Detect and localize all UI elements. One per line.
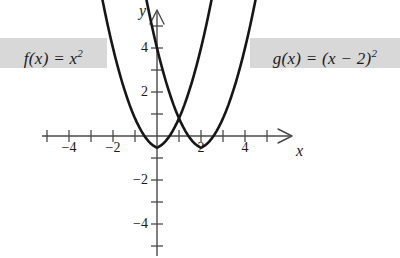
x-axis-label: x — [296, 142, 303, 160]
equation-label-f-exponent: 2 — [77, 47, 83, 59]
y-tick-label-minus-2: −2 — [122, 172, 148, 188]
equation-label-f: f(x) = x2 — [0, 38, 107, 68]
y-tick-label-minus-4: −4 — [122, 216, 148, 232]
equation-label-f-text: f(x) = x — [24, 49, 78, 68]
x-tick-label-minus-4: −4 — [57, 140, 81, 156]
y-tick-label-2: 2 — [128, 84, 148, 100]
curve-g-x-minus-2-squared — [145, 0, 258, 148]
y-axis-label: y — [139, 2, 146, 20]
equation-label-g-text: g(x) = (x − 2) — [273, 49, 372, 68]
y-tick-label-4: 4 — [128, 40, 148, 56]
x-tick-label-2: 2 — [190, 140, 212, 156]
equation-label-g-exponent: 2 — [372, 47, 378, 59]
x-tick-label-4: 4 — [234, 140, 256, 156]
graph-figure: −4 −2 2 4 4 2 −2 −4 x y f(x) = x2 g(x) =… — [0, 0, 400, 258]
x-tick-label-minus-2: −2 — [101, 140, 125, 156]
equation-label-g: g(x) = (x − 2)2 — [250, 38, 400, 68]
